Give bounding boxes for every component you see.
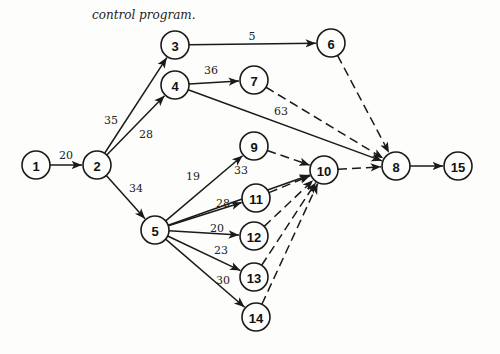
edge-label-3-6: 5 — [249, 30, 256, 43]
edge-2-to-3 — [105, 58, 167, 154]
network-diagram: 2035283453663193328202330 12345678910111… — [0, 0, 500, 354]
edge-label-2-3: 35 — [104, 114, 118, 127]
node-2: 2 — [83, 151, 111, 179]
edge-label-5-10: 33 — [234, 164, 248, 177]
node-10: 10 — [310, 156, 338, 184]
edge-label-4-8: 63 — [274, 105, 288, 118]
node-label: 15 — [451, 160, 465, 175]
node-label: 9 — [250, 140, 257, 155]
node-label: 7 — [250, 74, 257, 89]
node-14: 14 — [242, 303, 270, 331]
node-label: 14 — [249, 311, 264, 326]
edge-5-to-13 — [168, 236, 241, 271]
node-7: 7 — [240, 66, 268, 94]
node-5: 5 — [141, 216, 169, 244]
node-15: 15 — [444, 152, 472, 180]
node-13: 13 — [240, 263, 268, 291]
edge-label-4-7: 36 — [204, 64, 218, 77]
node-label: 4 — [171, 79, 179, 94]
node-label: 12 — [247, 230, 261, 245]
node-label: 13 — [247, 271, 261, 286]
edge-5-to-12 — [169, 231, 239, 235]
edge-9-to-10 — [267, 151, 310, 166]
edge-label-5-12: 20 — [210, 222, 224, 235]
node-8: 8 — [382, 152, 410, 180]
edge-label-5-13: 23 — [214, 244, 228, 257]
node-3: 3 — [161, 31, 189, 59]
edge-5-to-11 — [168, 203, 241, 226]
edge-4-to-8 — [188, 90, 382, 161]
edge-label-1-2: 20 — [59, 149, 73, 162]
edge-label-5-14: 30 — [216, 274, 230, 287]
node-6: 6 — [317, 29, 345, 57]
node-label: 1 — [32, 159, 39, 174]
node-label: 3 — [171, 39, 178, 54]
edge-11-to-10 — [269, 176, 310, 193]
edge-10-to-8 — [338, 167, 381, 169]
edge-3-to-6 — [189, 43, 316, 45]
edge-label-5-11: 28 — [216, 197, 230, 210]
edge-label-5-9: 19 — [186, 170, 200, 183]
node-label: 8 — [392, 160, 399, 175]
node-label: 10 — [317, 164, 331, 179]
node-11: 11 — [242, 184, 270, 212]
edge-7-to-8 — [266, 87, 383, 158]
edge-5-to-14 — [166, 239, 245, 307]
edge-label-2-5: 34 — [129, 182, 143, 195]
node-9: 9 — [240, 132, 268, 160]
node-1: 1 — [22, 151, 50, 179]
edge-5-to-9 — [166, 156, 243, 221]
edge-label-2-4: 28 — [139, 128, 153, 141]
node-label: 6 — [327, 37, 334, 52]
node-label: 11 — [249, 192, 263, 207]
node-4: 4 — [161, 71, 189, 99]
nodes-layer: 123456789101112131415 — [22, 29, 472, 331]
node-12: 12 — [240, 222, 268, 250]
edge-4-to-7 — [189, 81, 239, 84]
node-label: 5 — [151, 224, 158, 239]
edge-6-to-8 — [338, 55, 389, 152]
node-label: 2 — [93, 159, 100, 174]
edge-12-to-10 — [264, 180, 313, 226]
